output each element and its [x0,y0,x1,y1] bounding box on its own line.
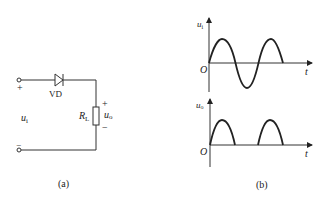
top-xlabel: t [305,66,308,77]
bottom-origin-label: O [200,146,207,157]
diode-icon [55,74,63,86]
top-ylabel: ui [197,19,204,30]
top-origin-label: O [200,64,207,75]
half-wave-rectifier-circuit [17,74,99,152]
resistor-label: RL [78,110,89,123]
output-minus-sign: − [102,122,108,133]
bottom-xlabel: t [305,148,308,159]
input-minus-sign: − [16,140,21,150]
input-plus-sign: + [17,82,23,93]
diode-label: VD [49,89,62,99]
output-voltage-label: uo [104,109,113,121]
output-waveform-plot [210,99,312,167]
resistor-icon [93,107,99,125]
output-rectified-curve-1 [210,120,235,145]
output-plus-sign: + [102,98,108,109]
caption-a: (a) [58,178,69,190]
diagram-canvas: + − VD ui RL + uo − (a) ui O t uo O t (b… [0,0,329,205]
bottom-ylabel: uo [196,100,204,110]
input-voltage-label: ui [21,112,28,125]
output-rectified-curve-2 [258,120,283,145]
caption-b: (b) [256,179,268,191]
input-waveform-plot [209,18,312,92]
